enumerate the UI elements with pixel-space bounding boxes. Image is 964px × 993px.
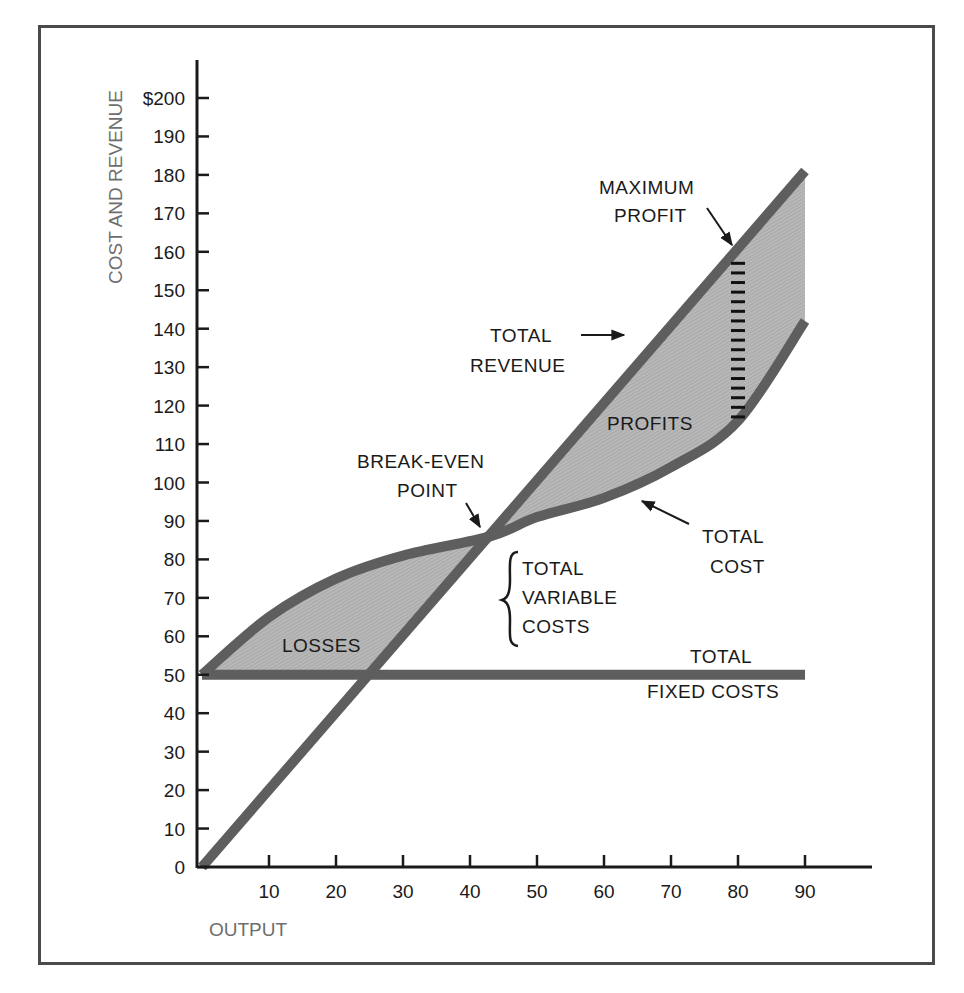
y-tick-label: 0 <box>174 857 185 878</box>
tvc-label-2: VARIABLE <box>522 587 618 608</box>
total-cost-arrow <box>642 501 689 524</box>
y-tick-label: 20 <box>164 780 185 801</box>
x-tick-label: 30 <box>392 881 413 902</box>
max-profit-arrow <box>707 208 732 245</box>
x-axis-title: OUTPUT <box>209 919 288 940</box>
y-tick-label: 170 <box>153 203 185 224</box>
y-tick-label: 190 <box>153 126 185 147</box>
x-tick-label: 60 <box>593 881 614 902</box>
total-cost-annotation: TOTAL COST <box>642 501 765 577</box>
break-even-chart: 0102030405060708090100110120130140150160… <box>0 0 964 993</box>
x-tick-label: 90 <box>794 881 815 902</box>
y-tick-label: 110 <box>155 434 185 455</box>
x-tick-label: 80 <box>727 881 748 902</box>
tfc-label-1: TOTAL <box>690 646 752 667</box>
y-ticks: 0102030405060708090100110120130140150160… <box>143 88 209 878</box>
total-variable-costs-annotation: TOTAL VARIABLE COSTS <box>502 552 618 646</box>
x-tick-label: 70 <box>660 881 681 902</box>
y-tick-label: 100 <box>153 473 185 494</box>
break-even-arrow <box>466 503 480 527</box>
tvc-label-3: COSTS <box>522 616 590 637</box>
total-revenue-label-2: REVENUE <box>470 355 565 376</box>
total-revenue-line <box>202 171 805 867</box>
y-tick-label: 160 <box>153 242 185 263</box>
y-tick-label: 30 <box>164 742 185 763</box>
y-tick-label: $200 <box>143 88 185 109</box>
total-revenue-label-1: TOTAL <box>490 325 552 346</box>
curves <box>202 171 805 867</box>
break-even-label-1: BREAK-EVEN <box>357 451 484 472</box>
y-tick-label: 80 <box>164 549 185 570</box>
y-tick-label: 50 <box>164 665 185 686</box>
max-profit-label-2: PROFIT <box>614 205 687 226</box>
brace-icon <box>502 552 518 646</box>
y-tick-label: 90 <box>164 511 185 532</box>
y-tick-label: 10 <box>164 819 185 840</box>
total-revenue-annotation: TOTAL REVENUE <box>470 325 624 376</box>
axes: 0102030405060708090100110120130140150160… <box>143 60 872 902</box>
y-tick-label: 70 <box>164 588 185 609</box>
x-tick-label: 40 <box>459 881 480 902</box>
total-cost-label-2: COST <box>710 556 765 577</box>
break-even-label-2: POINT <box>397 480 458 501</box>
y-tick-label: 150 <box>153 280 185 301</box>
tfc-label-2: FIXED COSTS <box>647 681 779 702</box>
total-cost-label-1: TOTAL <box>702 526 764 547</box>
profits-label: PROFITS <box>607 413 693 434</box>
x-tick-label: 10 <box>258 881 279 902</box>
y-axis-title: COST AND REVENUE <box>105 90 126 284</box>
y-tick-label: 120 <box>153 396 185 417</box>
y-tick-label: 40 <box>164 703 185 724</box>
y-tick-label: 140 <box>153 319 185 340</box>
x-ticks: 102030405060708090 <box>258 855 815 902</box>
x-tick-label: 20 <box>325 881 346 902</box>
y-tick-label: 130 <box>153 357 185 378</box>
losses-label: LOSSES <box>282 635 361 656</box>
y-tick-label: 60 <box>164 626 185 647</box>
tvc-label-1: TOTAL <box>522 558 584 579</box>
max-profit-label-1: MAXIMUM <box>599 177 694 198</box>
y-tick-label: 180 <box>153 165 185 186</box>
break-even-annotation: BREAK-EVEN POINT <box>357 451 484 527</box>
x-tick-label: 50 <box>526 881 547 902</box>
maximum-profit-annotation: MAXIMUM PROFIT <box>599 177 732 245</box>
